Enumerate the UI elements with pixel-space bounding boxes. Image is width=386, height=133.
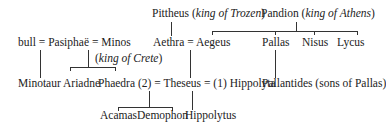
name-pallas: Pallas [262, 37, 289, 49]
person-pittheus: Pittheus (king of Trozen) [152, 8, 265, 20]
couple-bull-pasiphae-minos: bull = Pasiphaë = Minos [18, 37, 131, 49]
name-aegeus: Aegeus [196, 36, 231, 48]
name-acamas: Acamas [100, 110, 137, 122]
person-pandion: Pandion (king of Athens) [261, 8, 375, 20]
name-demophon: Demophon [137, 110, 188, 122]
name-bull: bull [18, 36, 36, 48]
name-pasiphae: Pasiphaë [48, 36, 89, 48]
name-minotaur: Minotaur [18, 78, 61, 90]
title-minos-text: king of Crete [99, 52, 159, 64]
couple-phaedra-theseus-hippolyta: Phaedra (2) = Theseus = (1) Hippolyta [98, 78, 276, 90]
marriage-sign: = [39, 36, 46, 48]
title-pandion: king of Athens [305, 7, 371, 19]
marriage-sign: = [154, 77, 161, 89]
name-minos: Minos [101, 36, 130, 48]
name-pallantides: Pallantides (sons of Pallas) [262, 78, 386, 90]
name-pittheus: Pittheus [152, 7, 189, 19]
title-pittheus: king of Trozen [196, 7, 261, 19]
marriage-sign: = [187, 36, 194, 48]
marriage-order: (1) [213, 77, 226, 89]
name-pandion: Pandion [261, 7, 299, 19]
name-theseus: Theseus [163, 77, 201, 89]
name-ariadne: Ariadne [63, 78, 100, 90]
marriage-sign: = [92, 36, 99, 48]
name-aethra: Aethra [153, 36, 184, 48]
name-hippolytus: Hippolytus [185, 110, 236, 122]
marriage-sign: = [204, 77, 211, 89]
name-phaedra: Phaedra [98, 77, 135, 89]
couple-aethra-aegeus: Aethra = Aegeus [153, 37, 230, 49]
name-lycus: Lycus [337, 37, 364, 49]
name-nisus: Nisus [302, 37, 328, 49]
marriage-order: (2) [138, 77, 151, 89]
title-minos: (king of Crete) [95, 53, 162, 65]
